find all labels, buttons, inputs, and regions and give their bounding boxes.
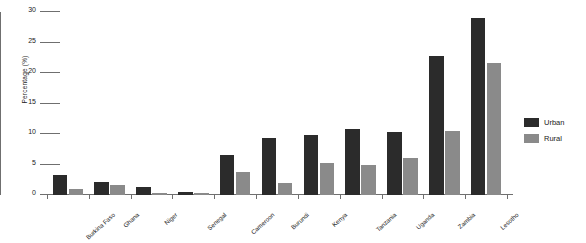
x-axis-label: Uganda (415, 211, 436, 231)
bar-group (220, 12, 251, 195)
y-axis-line (0, 12, 1, 195)
x-axis-label: Ghana (121, 211, 139, 229)
y-tick-label: 5 (32, 159, 36, 166)
y-axis-title: Percentage (%) (21, 20, 28, 140)
bar-rural (152, 193, 167, 195)
bar-urban (387, 132, 402, 195)
y-tick-label: 15 (28, 98, 36, 105)
bar-group (178, 12, 209, 195)
legend-item-rural: Rural (524, 132, 564, 145)
x-axis-label: Cameroon (250, 211, 276, 236)
bar-urban (220, 155, 235, 195)
bar-group (53, 12, 84, 195)
bar-group (304, 12, 335, 195)
x-axis-label: Burundi (289, 211, 310, 230)
bar-rural (194, 193, 209, 195)
y-tick-label: 0 (32, 189, 36, 196)
x-axis-label: Niger (162, 211, 178, 226)
x-tick (256, 195, 257, 199)
bar-group (262, 12, 293, 195)
legend-label-rural: Rural (544, 134, 562, 143)
legend-item-urban: Urban (524, 116, 564, 129)
x-axis-label: Lesotho (499, 211, 520, 231)
bar-chart: Percentage (%) 051015202530 Burkina Faso… (0, 0, 586, 243)
x-tick (131, 195, 132, 199)
x-tick (214, 195, 215, 199)
bar-rural (403, 158, 418, 195)
x-axis-label: Senegal (206, 211, 228, 231)
bar-group (345, 12, 376, 195)
bar-rural (110, 185, 125, 195)
bar-group (429, 12, 460, 195)
x-axis-label: Zambia (457, 211, 477, 230)
bar-urban (304, 135, 319, 195)
legend-swatch-rural (524, 134, 539, 143)
bar-group (94, 12, 125, 195)
y-tick-label: 10 (28, 128, 36, 135)
x-axis-label: Kenya (330, 211, 348, 228)
bar-rural (487, 63, 502, 195)
bar-rural (278, 183, 293, 195)
bar-rural (320, 163, 335, 195)
bar-urban (429, 56, 444, 195)
bar-group (136, 12, 167, 195)
bar-urban (471, 18, 486, 195)
bar-rural (236, 172, 251, 195)
bar-urban (136, 187, 151, 195)
bar-group (387, 12, 418, 195)
x-tick (47, 195, 48, 199)
chart-legend: Urban Rural (524, 116, 564, 148)
plot-area: 051015202530 Burkina FasoGhanaNigerSeneg… (47, 12, 507, 195)
x-tick (298, 195, 299, 199)
x-tick (423, 195, 424, 199)
bar-urban (262, 138, 277, 195)
x-axis-label: Burkina Faso (84, 211, 116, 241)
x-tick (89, 195, 90, 199)
bar-rural (361, 165, 376, 196)
bar-group (471, 12, 502, 195)
y-tick-label: 30 (28, 6, 36, 13)
x-tick (382, 195, 383, 199)
x-axis-label: Tanzania (374, 211, 397, 233)
y-tick-label: 20 (28, 67, 36, 74)
y-tick-label: 25 (28, 37, 36, 44)
bar-rural (445, 131, 460, 195)
legend-label-urban: Urban (544, 118, 564, 127)
bar-urban (53, 175, 68, 195)
x-tick (172, 195, 173, 199)
x-tick (340, 195, 341, 199)
x-tick (507, 195, 508, 199)
legend-swatch-urban (524, 118, 539, 127)
bar-urban (94, 182, 109, 195)
bar-groups (47, 12, 507, 195)
bar-urban (345, 129, 360, 195)
bar-urban (178, 192, 193, 195)
bar-rural (69, 189, 84, 195)
x-tick (465, 195, 466, 199)
